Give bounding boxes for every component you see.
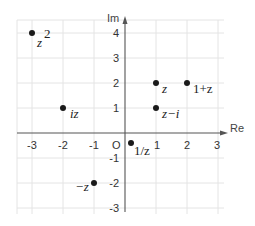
real-axis-arrow-icon [220, 131, 228, 136]
x-tick-label: -3 [27, 139, 37, 151]
imaginary-axis-label: Im [107, 12, 119, 24]
point-label: 1/z [134, 143, 150, 158]
x-tick-label: -1 [89, 139, 99, 151]
point-label: z [36, 35, 42, 50]
x-tick-label: -2 [58, 139, 68, 151]
point-z: z [153, 80, 167, 96]
real-axis-label: Re [230, 122, 244, 134]
y-tick-label: -1 [109, 152, 119, 164]
x-tick-label: 2 [184, 139, 190, 151]
point-dot [153, 105, 159, 111]
y-tick-label: 1 [113, 102, 119, 114]
point-label-superscript: 2 [44, 26, 51, 41]
point-reciprocal-z: 1/z [128, 140, 150, 158]
point-label: z [161, 81, 167, 96]
point-dot [60, 105, 66, 111]
point-label: −z [75, 179, 89, 194]
origin-label: O [112, 139, 121, 151]
y-tick-label: -2 [109, 177, 119, 189]
point-label: iz [70, 106, 79, 121]
complex-plane-diagram: Re Im O -3 -2 -1 1 2 3 4 3 2 1 -1 -2 -3 … [0, 0, 255, 226]
x-tick-label: 3 [214, 139, 220, 151]
complex-plane-svg: Re Im O -3 -2 -1 1 2 3 4 3 2 1 -1 -2 -3 … [0, 0, 255, 226]
point-z-minus-i: z−i [153, 105, 180, 121]
point-label: 1+z [193, 81, 213, 96]
y-tick-label: 2 [113, 77, 119, 89]
y-tick-labels: 4 3 2 1 -1 -2 -3 [109, 27, 119, 214]
point-dot [29, 30, 35, 36]
point-dot [91, 180, 97, 186]
point-dot [153, 80, 159, 86]
y-tick-label: -3 [109, 202, 119, 214]
y-tick-label: 3 [113, 52, 119, 64]
y-tick-label: 4 [113, 27, 119, 39]
x-tick-label: 1 [154, 139, 160, 151]
point-label: z−i [161, 106, 180, 121]
grid [17, 20, 224, 214]
x-tick-labels: -3 -2 -1 1 2 3 [27, 139, 220, 151]
point-1-plus-z: 1+z [184, 80, 213, 96]
point-dot [184, 80, 190, 86]
